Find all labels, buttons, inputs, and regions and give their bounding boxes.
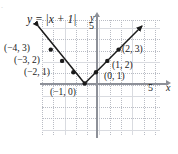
data-point-vertex [83,81,87,85]
data-point [49,47,53,51]
data-point [60,59,64,63]
point-label: (−4, 3) [4,44,30,54]
x-axis-label: x [166,83,170,93]
point-label: (2, 3) [122,45,143,55]
point-label: (0, 1) [104,72,125,82]
y-axis-tick-label: 5 [89,21,94,31]
data-point [105,59,109,63]
x-axis-tick-label: 5 [148,83,153,93]
point-label-vertex: (−1, 0) [50,88,76,98]
point-label: (1, 2) [112,61,133,71]
point-label: (−2, 1) [24,68,50,78]
point-label: (−3, 2) [14,56,40,66]
equation-label: y = |x + 1| [27,14,76,26]
absolute-value-graph-figure: . [0,0,178,154]
data-point [94,70,98,74]
data-point [71,70,75,74]
data-point [116,47,120,51]
